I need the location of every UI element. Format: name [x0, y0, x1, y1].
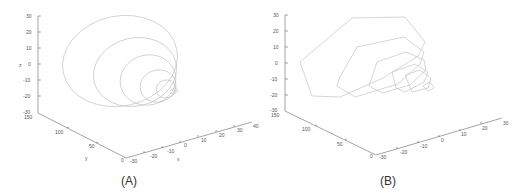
svg-text:-20: -20 — [270, 92, 277, 98]
panel-a-y-tick-labels: 150 100 50 0 y — [24, 114, 124, 163]
svg-text:40: 40 — [253, 123, 259, 129]
svg-text:-30: -30 — [130, 158, 137, 164]
svg-text:50: 50 — [337, 141, 343, 147]
svg-text:150: 150 — [271, 112, 280, 118]
svg-text:-10: -10 — [23, 77, 30, 83]
svg-text:50: 50 — [89, 143, 95, 149]
panel-a-trajectory — [54, 5, 186, 117]
svg-text:0: 0 — [28, 61, 31, 67]
panel-b-trajectory — [300, 17, 434, 97]
panel-b-label: (B) — [380, 174, 396, 188]
panel-b-z-tick-labels: 30 20 10 0 -10 -20 -30 — [270, 12, 279, 113]
panel-a-z-tick-labels: 30 20 10 0 -10 -20 -30 z — [19, 13, 32, 115]
svg-text:100: 100 — [302, 126, 311, 132]
svg-text:10: 10 — [461, 131, 467, 137]
svg-text:0: 0 — [370, 153, 373, 159]
svg-text:30: 30 — [26, 13, 32, 19]
svg-text:0: 0 — [441, 137, 444, 143]
svg-text:0: 0 — [121, 157, 124, 163]
svg-text:30: 30 — [503, 120, 509, 126]
svg-text:30: 30 — [273, 12, 279, 18]
panel-a-y-axis-label: y — [85, 155, 88, 161]
panel-a-x-tick-labels: -30 -20 -10 0 10 20 30 40 x — [130, 123, 259, 164]
svg-text:-20: -20 — [150, 153, 157, 159]
svg-text:-20: -20 — [23, 93, 30, 99]
svg-text:20: 20 — [26, 29, 32, 35]
svg-text:150: 150 — [24, 114, 33, 120]
panel-a-x-axis-label: x — [177, 156, 180, 162]
panel-b-x-tick-labels: -30 -20 -10 0 10 20 30 — [379, 120, 509, 160]
svg-text:-10: -10 — [270, 76, 277, 82]
svg-text:100: 100 — [55, 129, 64, 135]
svg-text:0: 0 — [275, 60, 278, 66]
svg-text:-20: -20 — [400, 149, 407, 155]
svg-text:10: 10 — [201, 137, 207, 143]
svg-text:20: 20 — [273, 28, 279, 34]
svg-text:-10: -10 — [167, 148, 174, 154]
svg-text:20: 20 — [482, 125, 488, 131]
svg-text:30: 30 — [237, 127, 243, 133]
svg-text:10: 10 — [273, 44, 279, 50]
svg-text:0: 0 — [184, 142, 187, 148]
svg-text:-30: -30 — [379, 154, 386, 160]
svg-text:20: 20 — [219, 132, 225, 138]
svg-text:-10: -10 — [420, 143, 427, 149]
panel-a-z-axis-label: z — [19, 62, 22, 68]
svg-text:10: 10 — [26, 45, 32, 51]
figure-canvas: 30 20 10 0 -10 -20 -30 z 150 100 50 0 y … — [0, 0, 521, 196]
panel-a-label: (A) — [121, 174, 137, 188]
panel-b-y-tick-labels: 150 100 50 0 — [271, 112, 373, 159]
